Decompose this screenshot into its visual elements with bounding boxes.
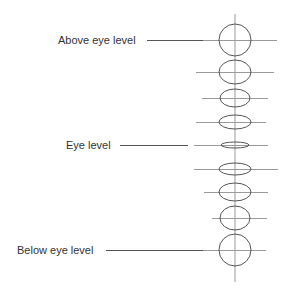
label-below-eye-level: Below eye level	[17, 244, 93, 256]
label-eye-level: Eye level	[66, 139, 111, 151]
label-above-eye-level: Above eye level	[58, 34, 136, 46]
ellipse-group	[194, 24, 278, 266]
